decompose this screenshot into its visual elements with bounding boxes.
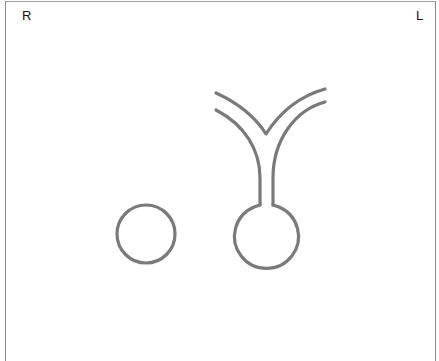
stem-left-wall (216, 110, 260, 205)
y-branch-upper (216, 89, 325, 134)
bulb-with-stem (235, 205, 299, 268)
round-structure (117, 205, 175, 263)
